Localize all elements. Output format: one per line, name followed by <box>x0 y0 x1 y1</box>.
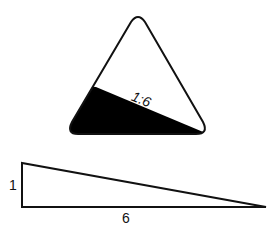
ratio-triangle: 1 6 <box>9 163 266 226</box>
run-label: 6 <box>122 210 130 226</box>
ratio-triangle-shape <box>22 163 266 207</box>
gradient-warning-sign: 1:6 <box>60 17 215 137</box>
gradient-diagram: 1:6 1 6 <box>0 0 276 237</box>
rise-label: 1 <box>9 177 17 193</box>
